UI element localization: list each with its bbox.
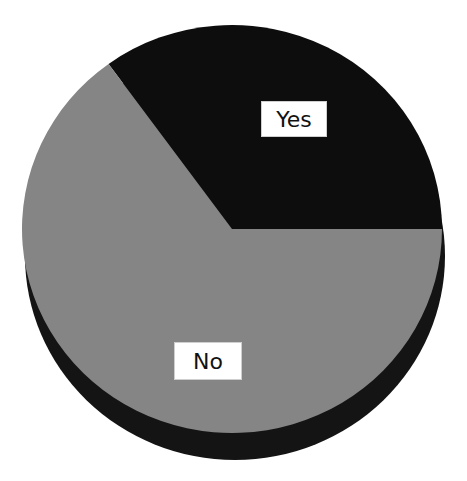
pie-chart — [0, 0, 467, 481]
slice-label-no: No — [174, 342, 242, 380]
slice-label-yes: Yes — [261, 101, 327, 137]
